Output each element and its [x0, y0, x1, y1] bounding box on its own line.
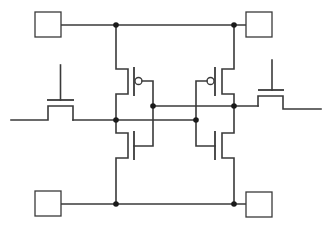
pmos-left	[116, 25, 153, 120]
access-right	[258, 60, 321, 109]
terminal-bottom-left	[35, 191, 61, 216]
node-bottom-right	[231, 201, 237, 207]
terminal-top-left	[35, 12, 61, 37]
terminal-top-right	[246, 12, 272, 37]
node-top-left	[113, 22, 119, 28]
inversion-bubble-icon	[135, 78, 142, 85]
inversion-bubble-icon	[207, 78, 214, 85]
gate-node-left	[150, 103, 156, 109]
sram-cell-diagram	[0, 0, 330, 225]
nmos-right	[196, 106, 234, 204]
node-bottom-left	[113, 201, 119, 207]
gate-node-right	[193, 117, 199, 123]
storage-node-right	[231, 103, 237, 109]
access-left	[11, 65, 74, 120]
node-top-right	[231, 22, 237, 28]
terminal-bottom-right	[246, 192, 272, 217]
storage-node-left	[113, 117, 119, 123]
